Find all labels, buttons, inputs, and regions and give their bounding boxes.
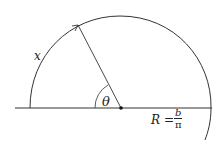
diagram-svg: [0, 0, 222, 148]
radius-line: [78, 25, 121, 108]
center-dot: [119, 106, 123, 110]
fraction-denominator: π: [175, 119, 182, 130]
outer-arc: [30, 16, 211, 140]
diagram-canvas: x θ R = b π: [0, 0, 222, 148]
radius-var: R: [151, 113, 160, 127]
radius-equation: R =: [151, 114, 174, 126]
equals-sign: =: [164, 113, 174, 127]
arc-label-x: x: [34, 50, 41, 62]
radius-fraction: b π: [174, 108, 182, 130]
fraction-numerator: b: [174, 108, 182, 119]
angle-label-theta: θ: [102, 95, 110, 108]
